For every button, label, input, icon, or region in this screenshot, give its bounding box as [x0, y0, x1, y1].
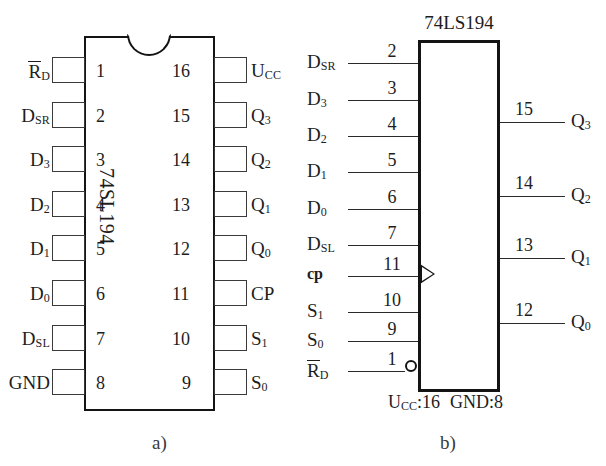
- dip-pin-number-12: 12: [172, 240, 190, 258]
- logic-output-signal-Q0: Q0: [571, 312, 591, 332]
- logic-input-signal-S1: S1: [307, 301, 324, 321]
- dip-signal-D2: D2: [2, 195, 50, 215]
- input-wire-5: [348, 172, 418, 173]
- dip-signal-D0: D0: [2, 284, 50, 304]
- logic-input-pin-9: 9: [370, 320, 414, 338]
- supply-note: UCC:16GND:8: [388, 392, 503, 414]
- dip-signal-D1: D1: [2, 239, 50, 259]
- clock-edge-triangle-inner: [422, 267, 433, 281]
- output-wire-15: [500, 122, 565, 123]
- output-wire-12: [500, 323, 565, 324]
- dip-pin-number-5: 5: [96, 240, 105, 258]
- logic-block-body: [418, 40, 500, 392]
- logic-output-signal-Q1: Q1: [571, 247, 591, 267]
- dip-pin-number-13: 13: [172, 196, 190, 214]
- gnd-value: GND:8: [450, 392, 503, 412]
- dip-pad-right-12: [214, 235, 247, 261]
- logic-input-signal-DSR: DSR: [307, 52, 336, 72]
- dip-signal-DSL: DSL: [2, 329, 50, 349]
- input-wire-9: [348, 341, 418, 342]
- dip-signal-S1: S1: [251, 329, 268, 349]
- vcc-sub: CC: [401, 399, 417, 413]
- dip-signal-RD: RD: [2, 61, 50, 82]
- logic-block-title: 74LS194: [418, 12, 500, 34]
- logic-input-pin-4: 4: [370, 115, 414, 133]
- logic-input-signal-DSL: DSL: [307, 234, 335, 254]
- logic-input-pin-5: 5: [370, 151, 414, 169]
- logic-input-signal-D0: D0: [307, 198, 327, 218]
- dip-pad-left-5: [52, 235, 85, 261]
- dip-pin-number-7: 7: [96, 330, 105, 348]
- input-wire-2: [348, 63, 418, 64]
- vcc-label: U: [388, 392, 401, 412]
- dip-pin-number-6: 6: [96, 285, 105, 303]
- dip-pin-number-4: 4: [96, 196, 105, 214]
- figure-canvas: 74SL194 1RD2DSR3D34D25D16D07DSL8GND 16UC…: [0, 0, 606, 466]
- dip-pad-left-6: [52, 280, 85, 306]
- dip-pin-number-3: 3: [96, 151, 105, 169]
- dip-signal-S0: S0: [251, 373, 268, 393]
- dip-pad-right-9: [214, 369, 247, 395]
- logic-input-signal-D2: D2: [307, 125, 327, 145]
- dip-pin-number-2: 2: [96, 107, 105, 125]
- input-wire-4: [348, 136, 418, 137]
- dip-pad-left-1: [52, 57, 85, 83]
- logic-output-signal-Q2: Q2: [571, 185, 591, 205]
- dip-signal-D3: D3: [2, 150, 50, 170]
- input-wire-11: [348, 276, 418, 277]
- dip-pad-right-10: [214, 325, 247, 351]
- dip-pad-left-7: [52, 325, 85, 351]
- logic-output-pin-13: 13: [504, 236, 544, 254]
- dip-pad-left-8: [52, 369, 85, 395]
- dip-pad-right-14: [214, 146, 247, 172]
- input-wire-7: [348, 245, 418, 246]
- logic-input-signal-S0: S0: [307, 330, 324, 350]
- logic-output-signal-Q3: Q3: [571, 111, 591, 131]
- logic-input-signal-cp: cp: [307, 266, 323, 282]
- dip-pin-number-16: 16: [172, 62, 190, 80]
- dip-signal-DSR: DSR: [2, 106, 50, 126]
- dip-chip-title: 74SL194: [95, 168, 118, 288]
- logic-output-pin-15: 15: [504, 100, 544, 118]
- dip-signal-CP: CP: [251, 284, 274, 303]
- dip-pin-number-8: 8: [96, 374, 105, 392]
- logic-input-pin-6: 6: [370, 188, 414, 206]
- dip-pin-number-1: 1: [96, 62, 105, 80]
- output-wire-14: [500, 196, 565, 197]
- input-wire-3: [348, 100, 418, 101]
- logic-input-pin-10: 10: [370, 291, 414, 309]
- dip-pin-number-14: 14: [172, 151, 190, 169]
- dip-pin-number-9: 9: [182, 374, 191, 392]
- input-wire-1: [348, 371, 405, 372]
- dip-pad-right-16: [214, 57, 247, 83]
- dip-pad-right-15: [214, 102, 247, 128]
- inversion-bubble-icon: [405, 360, 417, 372]
- dip-signal-Q0: Q0: [251, 239, 271, 259]
- logic-output-pin-14: 14: [504, 174, 544, 192]
- dip-pad-right-11: [214, 280, 247, 306]
- dip-pad-left-3: [52, 146, 85, 172]
- logic-input-pin-7: 7: [370, 224, 414, 242]
- dip-pin-number-11: 11: [172, 285, 189, 303]
- package-notch-mask: [129, 30, 169, 36]
- dip-pad-left-2: [52, 102, 85, 128]
- dip-signal-Q2: Q2: [251, 150, 271, 170]
- logic-output-pin-12: 12: [504, 301, 544, 319]
- dip-pad-left-4: [52, 191, 85, 217]
- output-wire-13: [500, 258, 565, 259]
- dip-signal-Q3: Q3: [251, 106, 271, 126]
- dip-pin-number-15: 15: [172, 107, 190, 125]
- dip-signal-UCC: UCC: [251, 61, 281, 81]
- caption-a: a): [152, 432, 167, 454]
- logic-input-signal-D1: D1: [307, 161, 327, 181]
- logic-input-signal-RD: RD: [307, 360, 329, 381]
- dip-signal-Q1: Q1: [251, 195, 271, 215]
- logic-input-pin-3: 3: [370, 79, 414, 97]
- input-wire-6: [348, 209, 418, 210]
- dip-signal-GND: GND: [2, 373, 50, 392]
- dip-pad-right-13: [214, 191, 247, 217]
- caption-b: b): [440, 432, 456, 454]
- input-wire-10: [348, 312, 418, 313]
- vcc-value: :16: [417, 392, 440, 412]
- logic-input-signal-D3: D3: [307, 89, 327, 109]
